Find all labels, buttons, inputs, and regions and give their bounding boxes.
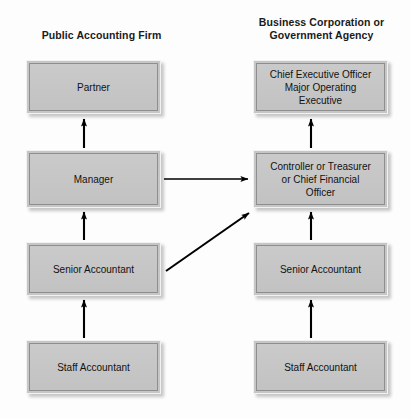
node-partner: Partner	[26, 60, 161, 114]
node-chief-executive-officer-body: Chief Executive Officer Major Operating …	[256, 63, 385, 111]
node-senior-accountant-right-body: Senior Accountant	[256, 245, 385, 293]
node-manager-body: Manager	[29, 153, 158, 205]
node-staff-accountant-right-label: Staff Accountant	[280, 361, 361, 374]
node-staff-accountant-right: Staff Accountant	[253, 340, 388, 394]
node-chief-executive-officer: Chief Executive Officer Major Operating …	[253, 60, 388, 114]
node-senior-accountant-left: Senior Accountant	[26, 242, 161, 296]
node-partner-body: Partner	[29, 63, 158, 111]
column-heading-business-corporation: Business Corporation or Government Agenc…	[239, 16, 404, 42]
column-heading-right-text: Business Corporation or Government Agenc…	[259, 16, 384, 41]
node-senior-accountant-left-label: Senior Accountant	[49, 263, 138, 276]
node-senior-accountant-right-label: Senior Accountant	[276, 263, 365, 276]
node-manager-label: Manager	[70, 173, 117, 186]
node-staff-accountant-right-body: Staff Accountant	[256, 343, 385, 391]
column-heading-public-accounting-firm: Public Accounting Firm	[14, 29, 189, 42]
node-chief-executive-officer-label: Chief Executive Officer Major Operating …	[266, 68, 376, 107]
node-controller-label: Controller or Treasurer or Chief Financi…	[266, 160, 375, 199]
node-partner-label: Partner	[73, 81, 114, 94]
node-staff-accountant-left-label: Staff Accountant	[53, 361, 134, 374]
node-staff-accountant-left-body: Staff Accountant	[29, 343, 158, 391]
node-controller: Controller or Treasurer or Chief Financi…	[253, 150, 388, 208]
node-staff-accountant-left: Staff Accountant	[26, 340, 161, 394]
org-chart-diagram: Public Accounting Firm Business Corporat…	[0, 0, 411, 419]
node-senior-accountant-left-body: Senior Accountant	[29, 245, 158, 293]
node-controller-body: Controller or Treasurer or Chief Financi…	[256, 153, 385, 205]
node-manager: Manager	[26, 150, 161, 208]
connector-senior-left-to-controller	[166, 213, 249, 271]
node-senior-accountant-right: Senior Accountant	[253, 242, 388, 296]
